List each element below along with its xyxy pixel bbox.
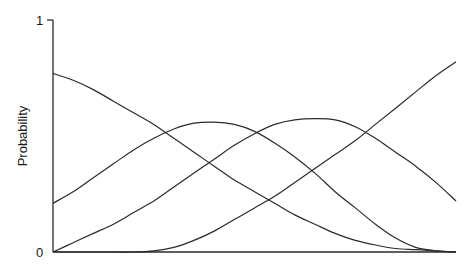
y-axis — [47, 20, 53, 252]
y-axis-title: Probability — [15, 105, 30, 166]
y-tick-label-bottom: 0 — [36, 245, 43, 260]
line-series-2 — [53, 122, 456, 252]
curves — [53, 62, 456, 252]
line-series-1 — [53, 73, 456, 252]
probability-chart: 1 0 Probability — [0, 0, 471, 273]
y-tick-label-top: 1 — [36, 13, 43, 28]
line-series-3 — [53, 119, 456, 252]
